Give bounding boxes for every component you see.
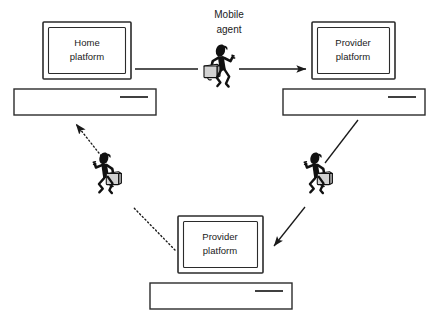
computer-base-provider-right [283,89,425,115]
mobile-agent-left[interactable] [93,151,121,193]
home-platform-label-line1: Home [74,37,99,48]
connector-provider-right-to-agent-right [325,120,358,163]
agent-head-icon [214,43,227,58]
mobile-agent-diagram: Home platform Provider platform Provider… [0,0,437,326]
agent-head-icon [98,151,110,165]
mobile-agent-top[interactable] [204,43,235,86]
computer-base-provider-bottom [150,283,292,309]
provider-bottom-label-line1: Provider [202,231,237,242]
agent-back-leg-icon [99,178,104,192]
provider-bottom-label-line2: platform [203,245,237,256]
agent-front-leg-icon [225,70,230,87]
agent-back-leg-icon [310,178,315,192]
agent-head-icon [309,151,321,165]
connector-agent-right-to-provider-bottom [274,207,305,246]
provider-right-label-line2: platform [336,51,370,62]
home-platform-label-line2: platform [70,51,104,62]
node-provider-platform-bottom[interactable]: Provider platform [150,216,292,309]
agent-front-arm-icon [224,57,232,61]
mobile-agent-right[interactable] [304,151,332,193]
connector-provider-bottom-to-agent-left [134,208,175,250]
diagram-canvas: Home platform Provider platform Provider… [0,0,437,326]
provider-right-label-line1: Provider [335,37,370,48]
node-home-platform[interactable]: Home platform [14,22,156,115]
mobile-agent-caption-line1: Mobile [214,9,244,20]
mobile-agent-caption-line2: agent [216,24,241,35]
computer-base-home [14,89,156,115]
